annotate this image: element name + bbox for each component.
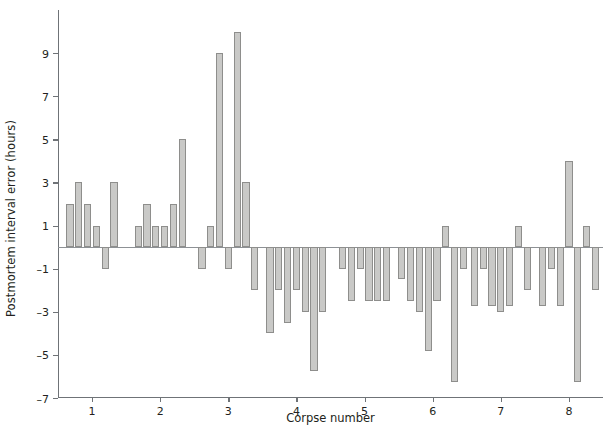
y-tick: 3 — [53, 182, 58, 183]
bar — [506, 247, 513, 306]
x-tick — [433, 397, 434, 402]
y-tick-label: 7 — [42, 90, 49, 103]
plot-area: –7–5–3–113579 12345678 — [58, 10, 603, 398]
bar — [416, 247, 423, 312]
bar — [365, 247, 372, 301]
x-tick — [501, 397, 502, 402]
bar — [460, 247, 467, 269]
bar — [383, 247, 390, 301]
bar — [515, 226, 522, 248]
bar — [583, 226, 590, 248]
bar — [234, 32, 241, 248]
x-tick — [160, 397, 161, 402]
bar — [275, 247, 282, 290]
y-tick: 5 — [53, 139, 58, 140]
bar — [102, 247, 109, 269]
bar — [251, 247, 258, 290]
y-tick-label: 5 — [42, 133, 49, 146]
bar — [442, 226, 449, 248]
bar — [451, 247, 458, 382]
bar — [293, 247, 300, 290]
bar — [357, 247, 364, 269]
zero-reference-line — [58, 247, 603, 248]
y-tick: 7 — [53, 96, 58, 97]
bar — [539, 247, 546, 306]
bar — [266, 247, 273, 333]
bar — [319, 247, 326, 312]
bar — [348, 247, 355, 301]
bar — [242, 182, 249, 247]
bar — [398, 247, 405, 279]
bar — [170, 204, 177, 247]
chart-figure: Postmortem interval error (hours) –7–5–3… — [0, 0, 613, 437]
bar — [374, 247, 381, 301]
y-tick: 1 — [53, 226, 58, 227]
y-tick: 9 — [53, 53, 58, 54]
x-axis-line — [58, 397, 603, 398]
bar — [152, 226, 159, 248]
bar — [471, 247, 478, 306]
bar — [198, 247, 205, 269]
bar — [135, 226, 142, 248]
bar — [524, 247, 531, 290]
y-tick-label: –1 — [37, 263, 50, 276]
y-axis-line — [58, 10, 59, 398]
bar — [216, 53, 223, 247]
bar — [548, 247, 555, 269]
bar — [179, 139, 186, 247]
bar — [93, 226, 100, 248]
bar — [497, 247, 504, 312]
bar — [225, 247, 232, 269]
bar — [480, 247, 487, 269]
y-tick: –7 — [53, 398, 58, 399]
bar — [66, 204, 73, 247]
y-tick-label: –5 — [37, 349, 50, 362]
bar — [161, 226, 168, 248]
bar — [488, 247, 495, 306]
x-tick — [228, 397, 229, 402]
y-tick-label: 1 — [42, 220, 49, 233]
bar — [110, 182, 117, 247]
x-tick — [569, 397, 570, 402]
bar — [557, 247, 564, 306]
x-axis-title: Corpse number — [58, 411, 603, 425]
bar — [84, 204, 91, 247]
x-tick — [365, 397, 366, 402]
y-tick: –5 — [53, 355, 58, 356]
bar — [339, 247, 346, 269]
bar — [592, 247, 599, 290]
x-tick — [92, 397, 93, 402]
bar — [565, 161, 572, 247]
bar — [75, 182, 82, 247]
x-tick — [296, 397, 297, 402]
bar — [407, 247, 414, 301]
y-tick: –3 — [53, 312, 58, 313]
y-tick-label: –7 — [37, 392, 50, 405]
y-tick-label: 9 — [42, 47, 49, 60]
bar — [425, 247, 432, 350]
y-tick: –1 — [53, 269, 58, 270]
y-tick-label: 3 — [42, 177, 49, 190]
y-axis-title: Postmortem interval error (hours) — [0, 0, 22, 437]
bar — [302, 247, 309, 312]
bar — [207, 226, 214, 248]
bar — [574, 247, 581, 382]
bar — [284, 247, 291, 322]
y-tick-label: –3 — [37, 306, 50, 319]
bar — [433, 247, 440, 301]
bar — [143, 204, 150, 247]
bar — [310, 247, 317, 371]
